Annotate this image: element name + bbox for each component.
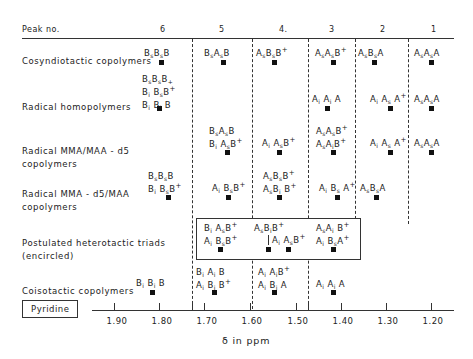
- row-label-radical-homo: Radical homopolymers: [22, 101, 131, 114]
- row-label-heterotactic: Postulated heterotactic triads(encircled…: [22, 237, 166, 263]
- triad: AsAsA: [414, 138, 440, 151]
- triad-stack: Bi AsB+Ai BsB+: [204, 223, 238, 249]
- triad-stack: AsAsB+AsAiB+: [316, 126, 348, 152]
- row-label-mma-d5-maa: Radical MMA - d5/MAAcopolymers: [22, 188, 129, 214]
- peak-marker: [331, 60, 336, 65]
- tick-label: 1.20: [423, 316, 444, 326]
- peak-marker: [429, 106, 434, 111]
- peak-marker: [286, 247, 291, 252]
- solvent-box: Pyridine: [22, 300, 78, 318]
- tick-label: 1.40: [333, 316, 354, 326]
- peak-marker: [166, 195, 171, 200]
- peak-marker: [331, 150, 336, 155]
- tick: [386, 303, 387, 310]
- peak-marker: [272, 290, 277, 295]
- peak-marker: [374, 195, 379, 200]
- triad-stack: AsBsB+AsBi B+: [263, 171, 297, 197]
- peak-marker: [429, 150, 434, 155]
- peak-1: 1: [431, 25, 437, 34]
- peak-4: 4.: [279, 25, 288, 34]
- tick: [114, 303, 115, 310]
- peak-marker: [225, 150, 230, 155]
- triad: AsBsA: [360, 183, 386, 196]
- bar-mark: [268, 235, 269, 245]
- row-label-mma-maa-d5: Radical MMA/MAA - d5copolymers: [22, 145, 129, 171]
- triad: BsBsB: [144, 48, 170, 61]
- triad: AsBsA: [358, 48, 384, 61]
- tick: [192, 303, 193, 310]
- peak-marker: [272, 60, 277, 65]
- tick: [341, 303, 342, 310]
- peak-5: 5: [219, 25, 225, 34]
- triad-stack: BsBsBBi BsB+: [148, 171, 182, 197]
- tick-label: 1.90: [107, 316, 128, 326]
- peak-marker: [266, 247, 271, 252]
- separator-6-5: [192, 39, 193, 309]
- peak-marker: [388, 150, 393, 155]
- peak-marker: [331, 247, 336, 252]
- peak-marker: [157, 106, 162, 111]
- row-label-cosyndiotactic: Cosyndiotactic copolymers: [22, 55, 152, 68]
- separator-4-3: [308, 39, 309, 309]
- tick: [431, 303, 432, 310]
- tick-label: 1.60: [242, 316, 263, 326]
- triad: AsAsA: [414, 48, 440, 61]
- peak-marker: [212, 290, 217, 295]
- tick: [296, 303, 297, 310]
- peak-no-label: Peak no.: [22, 25, 60, 34]
- tick-label: 1.70: [197, 316, 218, 326]
- peak-marker: [335, 195, 340, 200]
- peak-marker: [218, 247, 223, 252]
- peak-marker: [150, 290, 155, 295]
- tick-label: 1.80: [152, 316, 173, 326]
- peak-marker: [277, 195, 282, 200]
- tick: [308, 303, 309, 310]
- tick: [159, 303, 160, 310]
- row-label-coisotactic: Coisotactic copolymers: [22, 285, 134, 298]
- x-axis: [92, 310, 454, 311]
- peak-marker: [277, 150, 282, 155]
- peak-marker: [429, 60, 434, 65]
- peak-3: 3: [329, 25, 335, 34]
- triad-stack: BsAsBBi AsB+: [209, 126, 243, 152]
- peak-marker: [226, 195, 231, 200]
- x-axis-label: δ in ppm: [222, 335, 270, 346]
- header-rule: [22, 38, 454, 39]
- peak-marker: [325, 106, 330, 111]
- tick: [250, 303, 251, 310]
- triad-stack: AsAi B+Ai BsA+: [316, 223, 350, 249]
- peak-2: 2: [380, 25, 386, 34]
- peak-marker: [159, 60, 164, 65]
- peak-marker: [331, 290, 336, 295]
- tick-label: 1.50: [288, 316, 309, 326]
- separator-5-4: [252, 39, 253, 309]
- peak-marker: [372, 60, 377, 65]
- tick: [204, 303, 205, 310]
- peak-marker: [388, 106, 393, 111]
- peak-marker: [221, 60, 226, 65]
- separator-3-2: [355, 39, 356, 224]
- triad: AsAsA: [414, 94, 440, 107]
- separator-2-1: [408, 39, 409, 224]
- peak-6: 6: [160, 25, 166, 34]
- tick-label: 1.30: [378, 316, 399, 326]
